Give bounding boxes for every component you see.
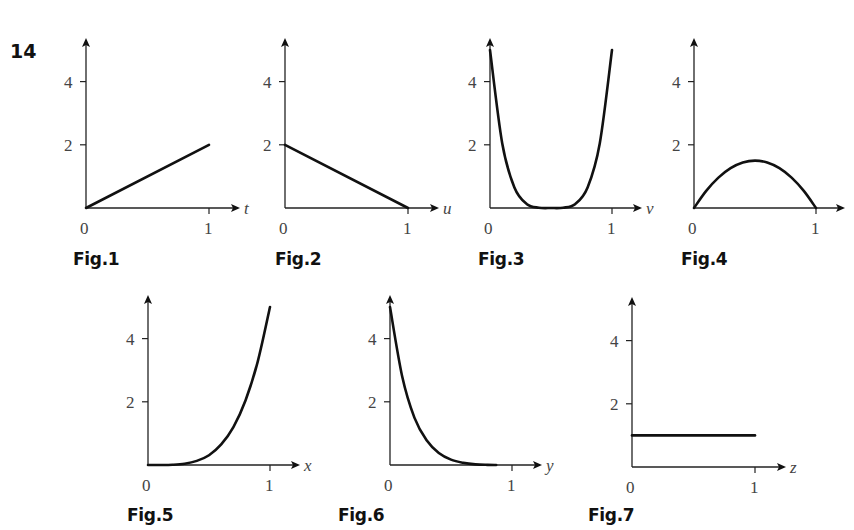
- axis-variable-label: y: [544, 456, 554, 475]
- function-curve: [490, 50, 612, 208]
- axis-variable-label: u: [443, 199, 452, 218]
- fig2-plot: 2401u: [263, 40, 452, 238]
- x-origin-label: 0: [142, 476, 151, 495]
- x-origin-label: 0: [688, 219, 697, 238]
- y-tick-label: 2: [126, 393, 135, 412]
- function-curve: [148, 307, 270, 465]
- x-origin-label: 0: [484, 219, 493, 238]
- function-curve: [390, 307, 496, 465]
- x-origin-label: 0: [384, 476, 393, 495]
- fig7-plot: 2401z: [610, 299, 797, 497]
- x-one-label: 1: [607, 219, 616, 238]
- y-tick-label: 4: [368, 330, 377, 349]
- x-one-label: 1: [507, 476, 516, 495]
- fig6-label: Fig.6: [338, 505, 384, 525]
- function-curve: [86, 145, 209, 208]
- x-origin-label: 0: [80, 219, 89, 238]
- y-tick-label: 4: [468, 73, 477, 92]
- axis-variable-label: v: [646, 199, 654, 218]
- fig1-label: Fig.1: [73, 249, 119, 269]
- x-one-label: 1: [750, 478, 759, 497]
- axis-variable-label: z: [789, 458, 797, 477]
- x-origin-label: 0: [626, 478, 635, 497]
- y-tick-label: 2: [672, 136, 681, 155]
- x-one-label: 1: [204, 219, 213, 238]
- y-tick-label: 4: [64, 73, 73, 92]
- fig1-plot: 2401t: [64, 40, 250, 238]
- y-tick-label: 4: [610, 332, 619, 351]
- y-tick-label: 4: [672, 73, 681, 92]
- fig6-plot: 2401y: [368, 297, 554, 495]
- fig2-label: Fig.2: [275, 249, 321, 269]
- axis-variable-label: t: [244, 199, 250, 218]
- x-origin-label: 0: [279, 219, 288, 238]
- y-tick-label: 4: [263, 73, 272, 92]
- y-tick-label: 2: [610, 395, 619, 414]
- fig5-plot: 2401x: [126, 297, 312, 495]
- y-tick-label: 4: [126, 330, 135, 349]
- fig7-label: Fig.7: [588, 505, 634, 525]
- fig4-plot: 2401: [672, 40, 843, 238]
- axis-variable-label: x: [303, 456, 312, 475]
- fig3-plot: 2401v: [468, 40, 654, 238]
- fig4-label: Fig.4: [681, 249, 727, 269]
- x-one-label: 1: [403, 219, 412, 238]
- function-curve: [694, 161, 816, 208]
- fig3-label: Fig.3: [478, 249, 524, 269]
- function-curve: [285, 145, 408, 208]
- y-tick-label: 2: [368, 393, 377, 412]
- y-tick-label: 2: [64, 136, 73, 155]
- x-one-label: 1: [265, 476, 274, 495]
- fig5-label: Fig.5: [127, 505, 173, 525]
- x-one-label: 1: [811, 219, 820, 238]
- y-tick-label: 2: [263, 136, 272, 155]
- y-tick-label: 2: [468, 136, 477, 155]
